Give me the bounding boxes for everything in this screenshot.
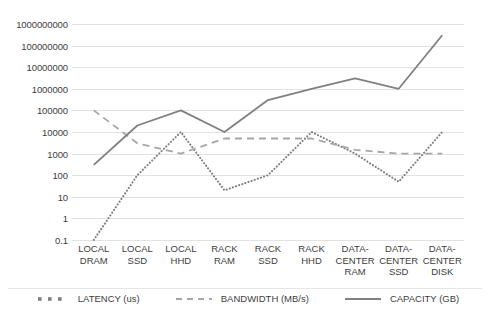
series-layer xyxy=(72,24,464,240)
dashed-line-swatch xyxy=(174,294,214,304)
legend-label: BANDWIDTH (MB/s) xyxy=(221,293,309,304)
chart-legend: LATENCY (us)BANDWIDTH (MB/s)CAPACITY (GB… xyxy=(0,293,490,304)
plot-area xyxy=(72,24,464,240)
y-tick-label: 1000000000 xyxy=(16,19,68,30)
legend-divider xyxy=(8,288,482,289)
legend-label: CAPACITY (GB) xyxy=(390,293,459,304)
x-axis: LOCALDRAMLOCALSSDLOCALHHDRACKRAMRACKSSDR… xyxy=(72,243,464,285)
series-line xyxy=(94,110,442,153)
gridline xyxy=(72,240,464,241)
y-tick-label: 10000000 xyxy=(27,62,68,73)
y-tick-label: 100000000 xyxy=(21,40,68,51)
y-tick-label: 100000 xyxy=(37,105,68,116)
legend-label: LATENCY (us) xyxy=(78,293,140,304)
y-axis: 1000000000100000000100000001000000100000… xyxy=(0,24,68,240)
legend-item[interactable]: BANDWIDTH (MB/s) xyxy=(174,293,309,304)
y-tick-label: 100 xyxy=(52,170,68,181)
y-tick-label: 10 xyxy=(58,191,68,202)
y-tick-label: 1 xyxy=(63,213,68,224)
legend-item[interactable]: LATENCY (us) xyxy=(31,293,140,304)
legend-item[interactable]: CAPACITY (GB) xyxy=(343,293,459,304)
y-tick-label: 10000 xyxy=(42,127,68,138)
x-tick-label: DATA-CENTERDISK xyxy=(413,243,471,278)
y-tick-label: 1000 xyxy=(47,148,68,159)
solid-line-swatch xyxy=(343,294,383,304)
dotted-line-swatch xyxy=(31,294,71,304)
line-chart: 1000000000100000000100000001000000100000… xyxy=(0,0,490,318)
series-line xyxy=(94,132,442,240)
y-tick-label: 1000000 xyxy=(32,83,68,94)
